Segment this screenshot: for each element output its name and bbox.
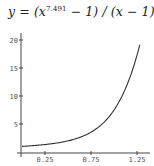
y-tick-label: 20 (10, 37, 18, 45)
x-tick-label: 0.75 (83, 156, 100, 164)
ticks: 51015200.250.751.25 (10, 37, 146, 165)
plot-area: 51015200.250.751.25 (0, 0, 154, 166)
axes (17, 33, 150, 157)
y-tick-label: 5 (14, 121, 18, 129)
x-tick-label: 0.25 (37, 156, 54, 164)
y-tick-label: 15 (10, 65, 18, 73)
x-tick-label: 1.25 (129, 156, 146, 164)
function-curve (22, 45, 140, 146)
y-tick-label: 10 (10, 93, 18, 101)
